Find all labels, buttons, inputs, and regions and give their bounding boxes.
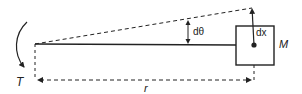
- diagram-graphics: [0, 0, 302, 94]
- radius-arrowhead-right-icon: [246, 77, 252, 83]
- radius-label: r: [144, 83, 148, 94]
- mass-label: M: [279, 39, 288, 50]
- angle-arrowhead-down-icon: [186, 39, 191, 44]
- torque-arrow-icon: [16, 22, 27, 67]
- radius-arrowhead-left-icon: [37, 77, 43, 83]
- displacement-arrowhead-icon: [249, 8, 255, 14]
- torque-label: T: [16, 76, 23, 88]
- displacement-label: dx: [256, 28, 267, 38]
- angle-label: dθ: [193, 27, 204, 37]
- angle-arrowhead-up-icon: [186, 20, 191, 25]
- rod-line: [35, 44, 236, 45]
- displacement-arrow: [252, 13, 254, 45]
- torque-diagram: T r dθ dx M: [0, 0, 302, 94]
- rotated-rod-dashed: [35, 8, 252, 44]
